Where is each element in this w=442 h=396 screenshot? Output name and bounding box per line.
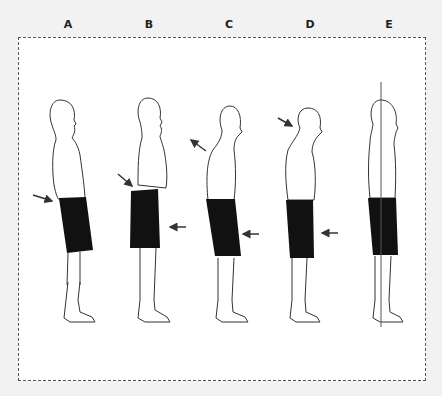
figure-a-leg xyxy=(67,252,80,285)
figure-a-shorts xyxy=(59,197,93,253)
figure-c-shorts xyxy=(206,199,241,256)
figure-b-arrow-lower-back xyxy=(118,174,132,186)
figure-c-arrow-upper-back xyxy=(191,140,206,151)
figure-e-shorts xyxy=(368,198,398,255)
figure-b-shorts xyxy=(130,189,160,248)
posture-figures xyxy=(0,0,442,396)
figure-a-arrow-lower-back xyxy=(33,195,52,201)
figure-d-shorts xyxy=(286,200,314,258)
figure-d-arrow-upper-back xyxy=(278,118,292,126)
